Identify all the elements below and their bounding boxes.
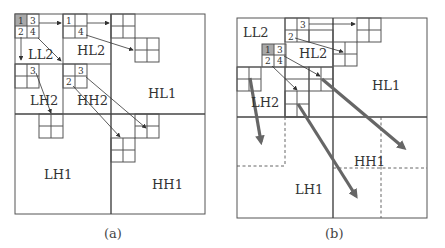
ll-cell-2: 2 [18,27,24,37]
hh2-cell-2: 2 [66,77,72,87]
label-b-hh1: HH1 [354,154,385,169]
ll-b-cell-3: 3 [277,45,283,55]
ll-b-cell-1: 1 [265,45,271,55]
ll-cell-1: 1 [18,16,24,26]
label-b-ll2: LL2 [243,25,269,40]
label-hh1: HH1 [152,177,183,192]
label-lh1: LH1 [44,167,72,182]
panel-b: 1 3 2 4 3 2 [237,18,427,241]
label-b-lh1: LH1 [295,182,323,197]
hl2-cell-4: 4 [78,27,84,37]
label-lh2: LH2 [30,93,58,108]
label-b-lh2: LH2 [251,95,279,110]
label-b-hl2: HL2 [299,46,327,61]
label-hh2: HH2 [77,93,108,108]
ll-cell-4: 4 [30,27,36,37]
wavelet-tree-diagram: 1 3 2 4 1 4 3 3 2 [0,0,445,248]
panel-a: 1 3 2 4 1 4 3 3 2 [15,14,205,241]
ll-b-cell-2: 2 [265,56,271,66]
label-b-hl1: HL1 [372,78,400,93]
lh2-cell-3: 3 [30,66,36,76]
label-ll2: LL2 [28,47,54,62]
hl2-b-cell-3: 3 [300,20,306,30]
caption-a: (a) [104,226,122,241]
hl2-b-cell-2: 2 [288,32,294,42]
thick-arrow-lh2 [250,78,261,142]
label-hl1: HL1 [148,86,176,101]
ll-cell-3: 3 [30,16,36,26]
caption-b: (b) [325,226,343,241]
ll-b-cell-4: 4 [277,56,283,66]
label-hl2: HL2 [77,43,105,58]
hl2-cell-1: 1 [66,16,72,26]
hh2-cell-3: 3 [78,66,84,76]
